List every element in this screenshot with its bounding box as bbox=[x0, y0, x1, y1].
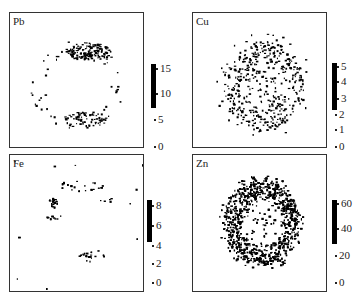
cu-tick-5: 5 bbox=[337, 61, 347, 72]
pb-map-panel: Pb bbox=[9, 12, 144, 148]
fe-tick-0: 0 bbox=[152, 277, 162, 288]
zn-label: Zn bbox=[196, 157, 208, 169]
pb-tick-15: 15 bbox=[156, 63, 171, 74]
fe-tick-2: 2 bbox=[152, 258, 162, 269]
zn-tick-60: 60 bbox=[337, 198, 352, 209]
pb-tick-0: 0 bbox=[154, 141, 164, 152]
cu-label: Cu bbox=[196, 15, 209, 27]
pb-label: Pb bbox=[13, 15, 25, 27]
fe-tick-8: 8 bbox=[152, 200, 162, 211]
zn-tick-40: 40 bbox=[337, 223, 352, 234]
cu-tick-2: 2 bbox=[335, 109, 345, 120]
fe-tick-6: 6 bbox=[152, 220, 162, 231]
cu-tick-3: 3 bbox=[337, 93, 347, 104]
zn-heatmap bbox=[193, 155, 327, 292]
cu-tick-1: 1 bbox=[335, 124, 345, 135]
pb-heatmap bbox=[10, 13, 144, 148]
zn-tick-20: 20 bbox=[335, 250, 350, 261]
fe-map-panel: Fe bbox=[9, 154, 144, 292]
pb-tick-5: 5 bbox=[154, 114, 164, 125]
fe-tick-4: 4 bbox=[152, 240, 162, 251]
cu-map-panel: Cu bbox=[192, 12, 327, 148]
cu-heatmap bbox=[193, 13, 327, 148]
zn-map-panel: Zn bbox=[192, 154, 327, 292]
fe-label: Fe bbox=[13, 157, 24, 169]
pb-tick-10: 10 bbox=[156, 88, 171, 99]
cu-tick-0: 0 bbox=[335, 141, 345, 152]
cu-tick-4: 4 bbox=[337, 76, 347, 87]
zn-tick-0: 0 bbox=[335, 277, 345, 288]
fe-heatmap bbox=[10, 155, 144, 292]
